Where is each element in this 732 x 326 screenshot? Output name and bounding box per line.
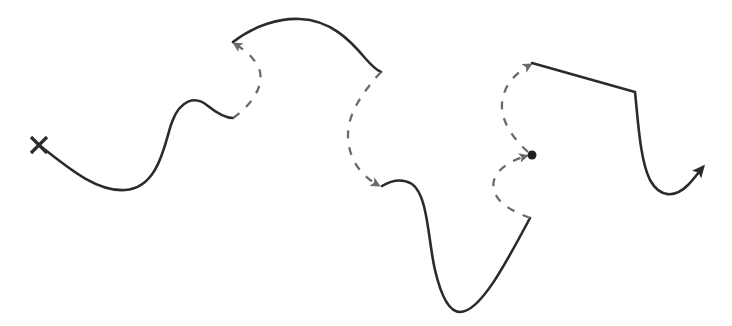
dashed-transition-3	[493, 156, 530, 218]
solid-segment-3	[382, 180, 530, 312]
solid-segment-2	[233, 19, 381, 72]
solid-segment-4	[532, 63, 703, 194]
dashed-transition-2	[348, 72, 381, 185]
dashed-transition-1	[233, 44, 261, 118]
waypoint-dot-icon	[528, 151, 537, 160]
dashed-transition-4	[502, 65, 530, 152]
solid-segment-1	[39, 100, 233, 190]
path-diagram	[0, 0, 732, 326]
